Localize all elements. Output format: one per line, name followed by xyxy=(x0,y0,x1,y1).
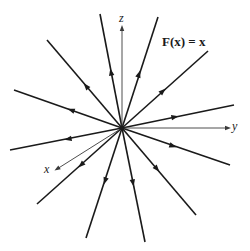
vector-field-diagram: F(x) = x z y x xyxy=(0,0,250,251)
x-axis-arrow-icon xyxy=(54,165,60,170)
arrow-icon xyxy=(109,68,114,76)
y-axis-arrow-icon xyxy=(225,126,231,131)
arrow-icon xyxy=(104,177,109,185)
arrow-icon xyxy=(135,71,140,79)
vector-field-plot xyxy=(0,0,250,251)
z-axis-arrow-icon xyxy=(120,25,125,31)
field-equation-title: F(x) = x xyxy=(162,35,206,48)
arrow-icon xyxy=(68,109,76,114)
z-axis-label: z xyxy=(119,12,124,24)
y-axis-label: y xyxy=(232,120,237,132)
origin-point xyxy=(120,126,124,130)
arrow-icon xyxy=(169,142,177,147)
x-axis-label: x xyxy=(44,163,49,175)
